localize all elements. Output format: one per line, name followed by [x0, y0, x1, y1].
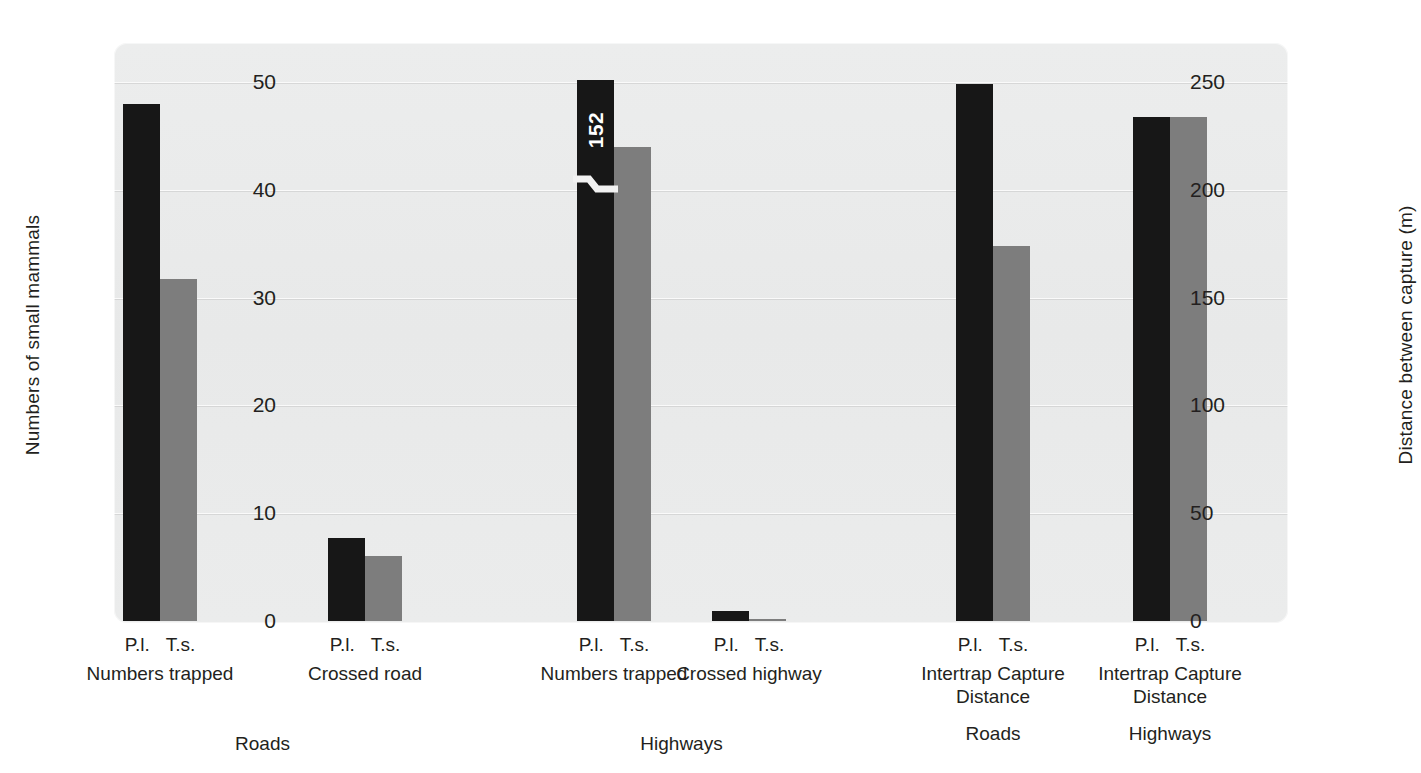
y-axis-right-tick: 150: [1190, 287, 1260, 308]
y-axis-left-tick: 10: [216, 502, 276, 523]
y-axis-right-tick: 100: [1190, 394, 1260, 415]
y-axis-left-tick: 30: [216, 287, 276, 308]
bar-value-label: 152: [584, 104, 608, 157]
x-axis-measure-label: Numbers trapped: [50, 662, 270, 685]
x-axis-measure-label: Crossed road: [255, 662, 475, 685]
y-axis-right-tick: 50: [1190, 502, 1260, 523]
x-axis-measure-label: Crossed highway: [639, 662, 859, 685]
species-label-gap: [355, 634, 371, 655]
species-label-gap: [739, 634, 755, 655]
y-axis-right-tick: 0: [1190, 610, 1260, 631]
species-label-ts: T.s.: [620, 634, 650, 655]
species-label-gap: [983, 634, 999, 655]
x-axis-species-pair: P.l. T.s.: [669, 634, 829, 656]
axis-break-zigzag-icon: [573, 165, 618, 199]
species-label-pl: P.l.: [1135, 634, 1160, 655]
species-label-pl: P.l.: [958, 634, 983, 655]
x-axis-super-label: Roads: [163, 733, 363, 755]
y-axis-left-tick: 0: [216, 610, 276, 631]
x-axis-super-label: Roads: [893, 723, 1093, 745]
x-axis-species-pair: P.l. T.s.: [285, 634, 445, 656]
y-axis-right-tick: 250: [1190, 71, 1260, 92]
measure-label-line1: Intertrap Capture: [1060, 662, 1280, 685]
species-label-pl: P.l.: [125, 634, 150, 655]
species-label-pl: P.l.: [579, 634, 604, 655]
species-label-ts: T.s.: [166, 634, 196, 655]
species-label-ts: T.s.: [755, 634, 785, 655]
measure-label-line1: Crossed highway: [639, 662, 859, 685]
x-axis-species-pair: P.l. T.s.: [1090, 634, 1250, 656]
species-label-ts: T.s.: [371, 634, 401, 655]
y-axis-right-tick: 200: [1190, 179, 1260, 200]
x-axis-super-label: Highways: [1070, 723, 1270, 745]
species-label-gap: [1160, 634, 1176, 655]
species-label-pl: P.l.: [330, 634, 355, 655]
y-axis-left-tick: 50: [216, 71, 276, 92]
measure-label-line1: Numbers trapped: [50, 662, 270, 685]
measure-label-line1: Crossed road: [255, 662, 475, 685]
x-axis-species-pair: P.l. T.s.: [913, 634, 1073, 656]
y-axis-left-tick: 40: [216, 179, 276, 200]
x-axis-species-pair: P.l. T.s.: [80, 634, 240, 656]
species-label-gap: [150, 634, 166, 655]
x-axis-measure-label: Intertrap CaptureDistance: [1060, 662, 1280, 708]
species-label-ts: T.s.: [999, 634, 1029, 655]
y-axis-left-tick: 20: [216, 394, 276, 415]
species-label-pl: P.l.: [714, 634, 739, 655]
measure-label-line2: Distance: [1060, 685, 1280, 708]
species-label-ts: T.s.: [1176, 634, 1206, 655]
x-axis-super-label: Highways: [582, 733, 782, 755]
species-label-gap: [604, 634, 620, 655]
